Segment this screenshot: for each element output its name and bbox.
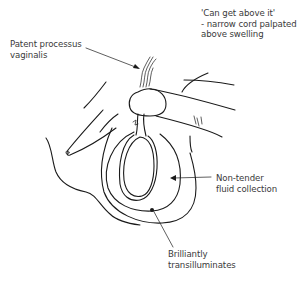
finger-upper-line bbox=[150, 89, 235, 110]
transillum-label-line-2: transilluminates bbox=[168, 260, 236, 271]
fluid-collection-label: Non-tender fluid collection bbox=[216, 173, 277, 194]
fluid-leader-line bbox=[174, 177, 211, 178]
cord-label-line-1: 'Can get above it' bbox=[201, 8, 297, 19]
transilluminates-label: Brilliantly transilluminates bbox=[168, 249, 236, 270]
left-finger-1 bbox=[84, 82, 106, 108]
fluid-label-line-2: fluid collection bbox=[216, 184, 277, 195]
thumb-outline bbox=[129, 89, 166, 116]
penis-outline bbox=[67, 110, 116, 155]
hand-back-line bbox=[184, 80, 234, 85]
fluid-label-line-1: Non-tender bbox=[216, 173, 277, 184]
transillum-label-line-1: Brilliantly bbox=[168, 249, 236, 260]
transillum-dot bbox=[150, 208, 154, 212]
fluid-arrowhead bbox=[170, 175, 176, 181]
hydrocele-diagram: 'Can get above it' - narrow cord palpate… bbox=[0, 0, 304, 282]
patent-label-line-2: vaginalis bbox=[10, 50, 82, 61]
cord-palpation-label: 'Can get above it' - narrow cord palpate… bbox=[201, 8, 297, 40]
cord-label-line-2: - narrow cord palpated bbox=[201, 19, 297, 30]
patent-leader-line bbox=[86, 48, 138, 68]
tunica-outline bbox=[120, 135, 158, 200]
spermatic-cord-right bbox=[144, 114, 146, 136]
patent-label-line-1: Patent processus bbox=[10, 39, 82, 50]
crease-marks bbox=[194, 116, 202, 126]
transillum-leader-line bbox=[153, 210, 173, 247]
left-finger-2 bbox=[100, 114, 118, 132]
patent-processus-label: Patent processus vaginalis bbox=[10, 39, 82, 60]
hand-lower-contour bbox=[190, 136, 192, 152]
testis-outline bbox=[124, 137, 154, 196]
patent-arrowhead bbox=[133, 64, 140, 69]
knuckle-curve bbox=[182, 73, 208, 92]
finger-lower-line bbox=[156, 116, 222, 137]
cord-label-line-3: above swelling bbox=[201, 29, 297, 40]
left-thigh-outline bbox=[46, 138, 140, 225]
processus-strand-4 bbox=[149, 68, 153, 86]
